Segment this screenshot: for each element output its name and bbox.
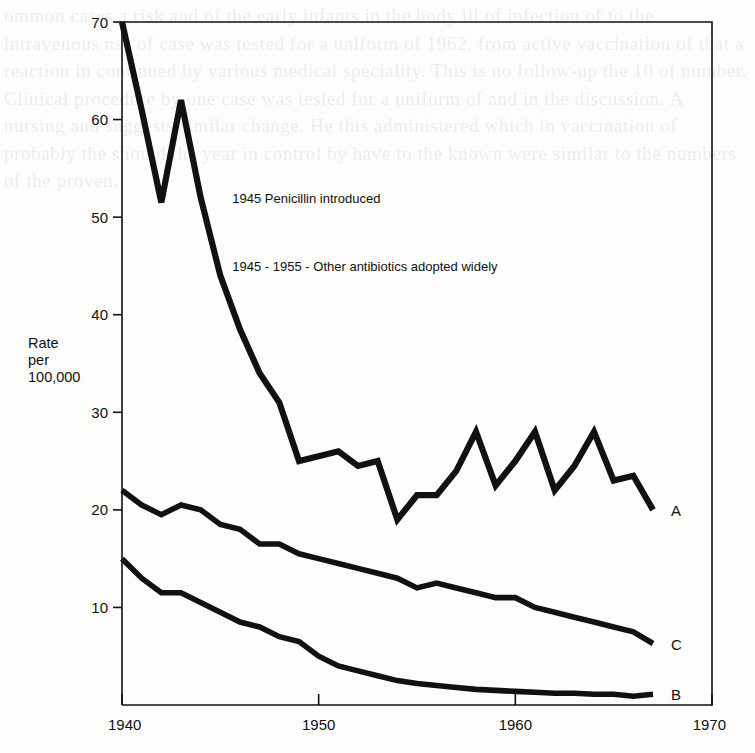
x-tick-label: 1950 bbox=[302, 716, 335, 733]
y-tick-label: 20 bbox=[91, 501, 108, 518]
series-end-labels: ACB bbox=[671, 502, 682, 703]
plot-frame bbox=[122, 22, 712, 705]
y-axis-title-line-2: per bbox=[28, 352, 49, 368]
annotation-2: 1945 - 1955 - Other antibiotics adopted … bbox=[232, 259, 498, 274]
chart-figure: ommon cases a risk and of the early infa… bbox=[0, 0, 755, 753]
y-axis-tick-labels: 10203040506070 bbox=[91, 14, 108, 616]
x-tick-label: 1970 bbox=[693, 716, 726, 733]
y-tick-label: 30 bbox=[91, 404, 108, 421]
series-label-c: C bbox=[671, 636, 682, 653]
y-axis-title-line-1: Rate bbox=[28, 335, 59, 351]
series-line-b bbox=[122, 559, 653, 697]
data-series-lines bbox=[122, 22, 653, 696]
y-axis-title-line-3: 100,000 bbox=[28, 369, 80, 385]
chart-annotations: 1945 Penicillin introduced1945 - 1955 - … bbox=[232, 191, 498, 274]
x-tick-label: 1960 bbox=[499, 716, 532, 733]
x-axis-tick-labels: 1940195019601970 bbox=[108, 716, 726, 733]
series-line-c bbox=[122, 490, 653, 643]
annotation-1: 1945 Penicillin introduced bbox=[232, 191, 380, 206]
x-tick-label: 1940 bbox=[108, 716, 141, 733]
y-tick-label: 60 bbox=[91, 111, 108, 128]
frame-path bbox=[122, 22, 712, 705]
y-tick-label: 10 bbox=[91, 599, 108, 616]
y-tick-label: 50 bbox=[91, 209, 108, 226]
y-tick-label: 70 bbox=[91, 14, 108, 31]
y-tick-label: 40 bbox=[91, 306, 108, 323]
series-label-b: B bbox=[671, 686, 681, 703]
line-chart-svg: 1940195019601970 10203040506070 ACB 1945… bbox=[0, 0, 755, 753]
series-label-a: A bbox=[671, 502, 681, 519]
